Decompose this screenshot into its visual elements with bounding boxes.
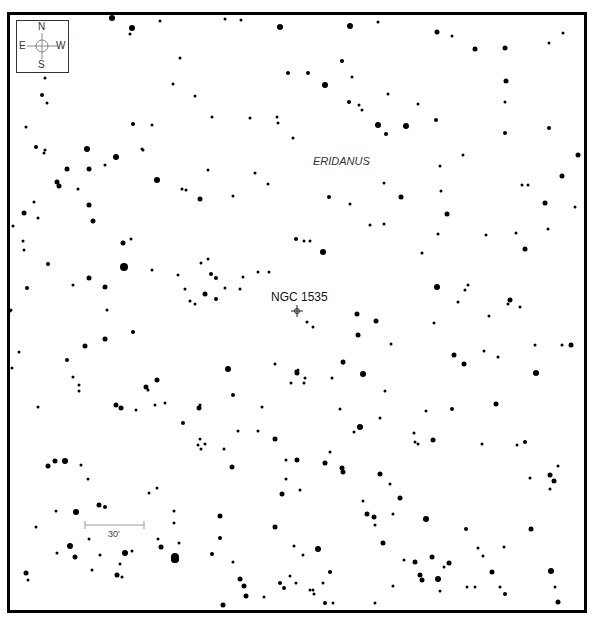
compass-rose: N S E W: [16, 20, 69, 73]
chart-frame: [7, 12, 587, 613]
compass-west-label: W: [56, 41, 65, 51]
scale-bar-label: 30': [108, 529, 120, 539]
constellation-label: ERIDANUS: [313, 155, 370, 167]
compass-south-label: S: [38, 60, 45, 70]
finder-chart: N S E W ERIDANUS NGC 1535 30': [0, 0, 594, 626]
compass-north-label: N: [38, 22, 45, 32]
compass-east-label: E: [19, 41, 26, 51]
object-label: NGC 1535: [271, 290, 328, 304]
